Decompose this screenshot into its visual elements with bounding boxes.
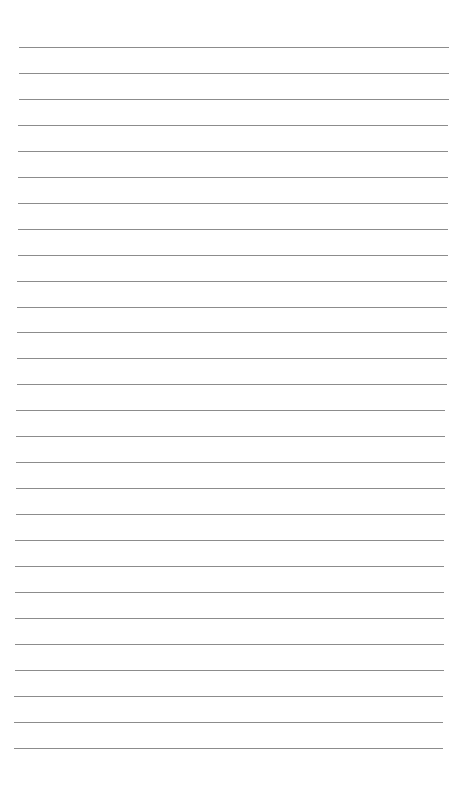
ruled-line xyxy=(16,514,445,515)
ruled-line xyxy=(16,488,445,489)
ruled-line xyxy=(15,670,444,671)
ruled-line xyxy=(17,281,447,282)
ruled-line xyxy=(19,47,449,48)
lined-paper-page xyxy=(0,0,461,786)
ruled-line xyxy=(18,203,448,204)
ruled-line xyxy=(15,592,444,593)
ruled-line xyxy=(19,73,449,74)
ruled-line xyxy=(17,307,447,308)
ruled-line xyxy=(14,722,443,723)
ruled-line xyxy=(18,177,448,178)
ruled-line xyxy=(19,99,449,100)
ruled-line xyxy=(18,151,448,152)
ruled-line xyxy=(15,540,444,541)
ruled-line xyxy=(18,125,448,126)
ruled-line xyxy=(16,410,445,411)
ruled-line xyxy=(16,462,445,463)
ruled-line xyxy=(14,748,443,749)
ruled-line xyxy=(17,332,447,333)
ruled-line xyxy=(18,229,448,230)
ruled-line xyxy=(17,384,447,385)
ruled-line xyxy=(17,358,447,359)
ruled-line xyxy=(14,696,443,697)
ruled-line xyxy=(18,255,448,256)
ruled-line xyxy=(15,566,444,567)
ruled-line xyxy=(16,436,445,437)
ruled-line xyxy=(15,618,444,619)
ruled-line xyxy=(15,644,444,645)
